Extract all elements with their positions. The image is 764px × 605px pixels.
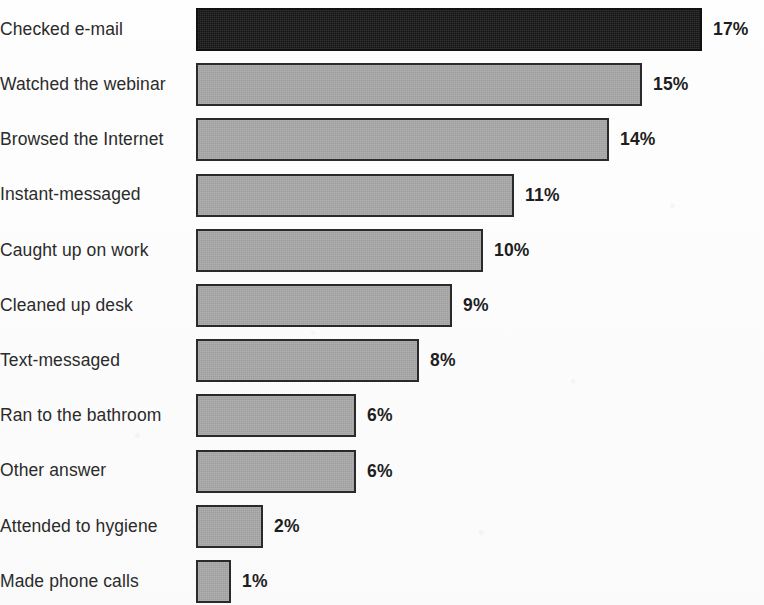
bar-row[interactable]: Checked e-mail17%: [0, 2, 764, 57]
bar-value-label: 8%: [430, 350, 456, 371]
bar-category-label: Ran to the bathroom: [0, 406, 196, 425]
bar-row[interactable]: Attended to hygiene2%: [0, 499, 764, 554]
bar-category-label: Attended to hygiene: [0, 517, 196, 536]
bar-track: 8%: [196, 333, 764, 388]
bar-value-label: 9%: [463, 295, 489, 316]
bar-row[interactable]: Made phone calls1%: [0, 554, 764, 605]
bar-highlighted[interactable]: [196, 8, 702, 51]
bar-track: 2%: [196, 499, 764, 554]
bar-value-label: 14%: [620, 129, 656, 150]
bar-value-label: 6%: [367, 405, 393, 426]
bar-value-label: 6%: [367, 461, 393, 482]
bar-value-label: 1%: [242, 571, 268, 592]
bar[interactable]: [196, 229, 483, 272]
bar-category-label: Text-messaged: [0, 351, 196, 370]
bar-category-label: Instant-messaged: [0, 185, 196, 204]
bar-value-label: 10%: [494, 240, 530, 261]
bar[interactable]: [196, 284, 452, 327]
bar-row[interactable]: Instant-messaged11%: [0, 168, 764, 223]
bar[interactable]: [196, 450, 356, 493]
bar-track: 17%: [196, 2, 764, 57]
bar[interactable]: [196, 174, 514, 217]
bar[interactable]: [196, 118, 609, 161]
bar-track: 15%: [196, 57, 764, 112]
bar-rows-container: Checked e-mail17%Watched the webinar15%B…: [0, 0, 764, 605]
bar-category-label: Checked e-mail: [0, 20, 196, 39]
bar-chart: Checked e-mail17%Watched the webinar15%B…: [0, 0, 764, 605]
bar-value-label: 15%: [653, 74, 689, 95]
bar-value-label: 17%: [713, 19, 749, 40]
bar-category-label: Watched the webinar: [0, 75, 196, 94]
bar-row[interactable]: Caught up on work10%: [0, 223, 764, 278]
bar-track: 14%: [196, 112, 764, 167]
bar-category-label: Browsed the Internet: [0, 130, 196, 149]
bar-category-label: Caught up on work: [0, 241, 196, 260]
bar-category-label: Cleaned up desk: [0, 296, 196, 315]
bar-row[interactable]: Text-messaged8%: [0, 333, 764, 388]
bar[interactable]: [196, 394, 356, 437]
bar-track: 9%: [196, 278, 764, 333]
bar-value-label: 2%: [274, 516, 300, 537]
bar-row[interactable]: Cleaned up desk9%: [0, 278, 764, 333]
bar[interactable]: [196, 339, 419, 382]
bar-row[interactable]: Browsed the Internet14%: [0, 112, 764, 167]
bar-track: 6%: [196, 444, 764, 499]
bar-row[interactable]: Ran to the bathroom6%: [0, 388, 764, 443]
bar-track: 10%: [196, 223, 764, 278]
bar-category-label: Made phone calls: [0, 572, 196, 591]
bar-track: 11%: [196, 168, 764, 223]
bar[interactable]: [196, 560, 231, 603]
bar-row[interactable]: Watched the webinar15%: [0, 57, 764, 112]
bar-track: 6%: [196, 388, 764, 443]
bar[interactable]: [196, 63, 642, 106]
bar-track: 1%: [196, 554, 764, 605]
bar-category-label: Other answer: [0, 461, 196, 480]
bar-row[interactable]: Other answer6%: [0, 444, 764, 499]
bar-value-label: 11%: [525, 185, 560, 206]
bar[interactable]: [196, 505, 263, 548]
